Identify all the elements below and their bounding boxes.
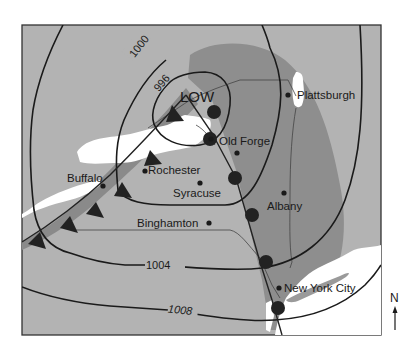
city-dot-old-forge-east — [234, 150, 239, 155]
city-label-plattsburgh: Plattsburgh — [297, 89, 355, 101]
city-label-albany: Albany — [267, 200, 302, 212]
city-dot-syracuse — [197, 180, 202, 185]
city-dot-albany — [281, 190, 286, 195]
city-label-old-forge: Old Forge — [219, 135, 270, 147]
city-dot-buffalo — [100, 183, 105, 188]
isobar-label-1004: 1004 — [146, 259, 170, 271]
weather-map: 1000 996 1004 1008 LOW Plattsburgh Old F… — [0, 0, 413, 355]
city-dot-plattsburgh — [285, 92, 290, 97]
north-label: N — [390, 291, 399, 305]
city-label-rochester: Rochester — [148, 164, 201, 176]
city-dot-old-forge — [208, 136, 213, 141]
city-dot-new-york-city — [276, 285, 281, 290]
city-dot-rochester — [142, 168, 147, 173]
city-dot-binghamton — [206, 220, 211, 225]
city-label-buffalo: Buffalo — [67, 172, 103, 184]
low-pressure-label: LOW — [180, 88, 215, 105]
city-label-new-york-city: New York City — [284, 282, 356, 294]
city-label-binghamton: Binghamton — [137, 217, 198, 229]
north-arrow-icon: N — [390, 291, 399, 330]
city-label-syracuse: Syracuse — [173, 187, 221, 199]
